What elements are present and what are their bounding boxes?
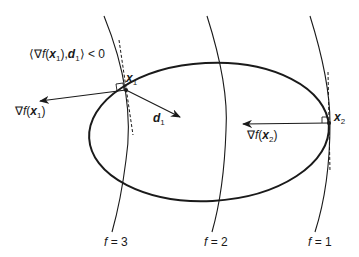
optimization-diagram: ⟨∇f(x1),d1⟩ < 0 x1 x2 ∇f(x1) d1 ∇f(x2) f… [0,0,359,257]
inner-product-annotation: ⟨∇f(x1),d1⟩ < 0 [29,47,105,63]
point-x1 [124,88,128,92]
label-level-f3: f = 3 [104,235,128,249]
gradient-arrow-x1 [40,90,126,101]
level-curve-f1 [310,16,330,232]
label-gradient-x1: ∇f(x1) [14,104,45,120]
point-x2 [327,121,331,125]
label-d1: d1 [153,111,165,127]
label-x1: x1 [125,71,138,87]
label-level-f2: f = 2 [204,235,228,249]
label-x2: x2 [333,110,346,126]
label-level-f1: f = 1 [308,235,332,249]
level-curve-f3 [104,16,128,232]
label-gradient-x2: ∇f(x2) [246,128,277,144]
gradient-arrow-x2 [243,123,329,124]
